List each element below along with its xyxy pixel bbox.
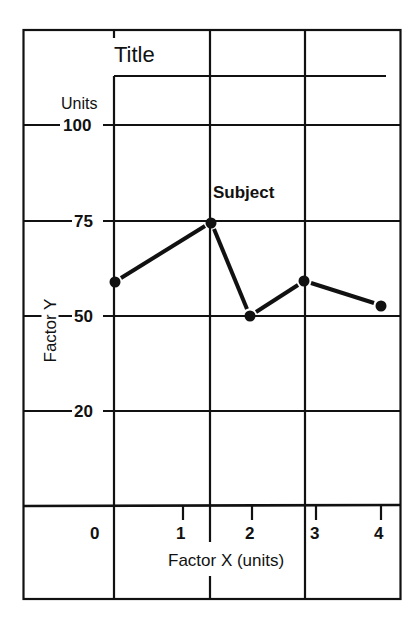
chart-title: Title (114, 44, 155, 66)
y-tick-20: 20 (73, 403, 94, 420)
y-units-label: Units (61, 96, 97, 112)
x-tick-4: 4 (374, 525, 383, 542)
x-tick-0: 0 (90, 525, 99, 542)
series-annotation-subject: Subject (213, 184, 274, 201)
x-tick-3: 3 (310, 525, 319, 542)
y-tick-50: 50 (73, 308, 94, 325)
y-axis-label: Factor Y (42, 289, 59, 373)
x-tick-2: 2 (245, 525, 254, 542)
x-axis-label: Factor X (units) (168, 550, 284, 571)
data-point (206, 218, 217, 229)
y-tick-75: 75 (73, 213, 94, 230)
y-tick-100: 100 (62, 117, 92, 134)
x-axis-line (24, 505, 401, 506)
data-point (110, 277, 121, 288)
data-point (299, 276, 310, 287)
series-line-subject (121, 226, 374, 312)
data-point (245, 311, 256, 322)
x-tick-1: 1 (176, 525, 185, 542)
data-point (376, 301, 387, 312)
series-markers (110, 218, 387, 322)
